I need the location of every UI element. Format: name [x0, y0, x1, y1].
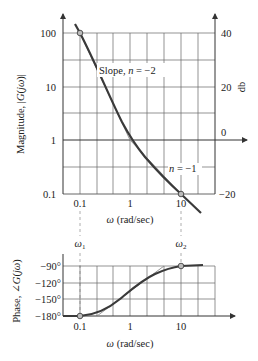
phase-tick-minus150: −150° [35, 294, 61, 305]
slope-annotation: Slope, n = −2 [99, 65, 156, 76]
phase-y-label: Phase, ∠G(jω) [11, 259, 23, 323]
phase-plot: −90° −120° −150° −180° 0.1 1 10 ω (rad/s… [11, 254, 235, 350]
phase-tick-minus180: −180° [35, 311, 61, 322]
omega-markers: ω1 ω2 [72, 211, 189, 316]
phase-x-label: ω (rad/sec) [107, 338, 154, 350]
xtick-10: 10 [176, 198, 187, 209]
ytick-100: 100 [40, 28, 56, 39]
phase-tick-minus120: −120° [35, 278, 61, 289]
xtick-1: 1 [127, 198, 132, 209]
phase-xtick-10: 10 [176, 321, 187, 332]
phase-curve [63, 265, 203, 316]
db-tick-0: 0 [221, 127, 226, 138]
phase-xtick-1: 1 [127, 321, 132, 332]
magnitude-y-label: Magnitude, |G(jω)| [15, 74, 27, 154]
db-tick-40: 40 [221, 28, 232, 39]
magnitude-curve [75, 24, 201, 213]
omega1-magnitude-point [77, 30, 83, 36]
ytick-1: 1 [51, 135, 56, 146]
phase-grid [63, 266, 215, 316]
omega2-magnitude-point [178, 191, 184, 197]
phase-tick-minus90: −90° [40, 261, 61, 272]
phase-xtick-0.1: 0.1 [73, 321, 86, 332]
magnitude-plot: 100 10 1 0.1 40 20 0 −20 db 0.1 1 10 ω (… [15, 14, 247, 226]
ytick-0.1: 0.1 [43, 189, 56, 200]
magnitude-asymptote [80, 33, 181, 194]
omega2-phase-point [178, 263, 184, 269]
db-tick-20: 20 [221, 82, 232, 93]
bode-diagram: 100 10 1 0.1 40 20 0 −20 db 0.1 1 10 ω (… [0, 0, 258, 361]
omega1-phase-point [77, 313, 83, 319]
db-axis-label: db [236, 82, 247, 93]
xtick-0.1: 0.1 [73, 198, 86, 209]
db-tick-minus20: −20 [219, 189, 235, 200]
magnitude-x-label: ω (rad/sec) [107, 214, 154, 226]
ytick-10: 10 [46, 82, 57, 93]
n-minus1-annotation: n = −1 [169, 163, 197, 174]
